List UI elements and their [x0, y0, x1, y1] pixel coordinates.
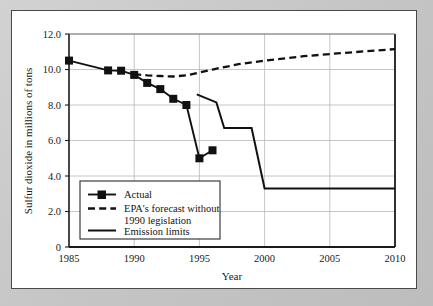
data-point-marker [156, 85, 164, 93]
chart-legend[interactable]: Actual EPA's forecast without 1990 legis… [80, 181, 220, 239]
xtick-label-1990: 1990 [124, 253, 145, 264]
xtick-label-1985: 1985 [59, 253, 80, 264]
data-point-marker [65, 57, 73, 65]
ytick-label-0: 0 [56, 242, 61, 253]
data-point-marker [130, 71, 138, 79]
y-tick-labels: 12.0 10.0 8.0 6.0 4.0 2.0 0 [43, 29, 61, 253]
chart-panel: 12.0 10.0 8.0 6.0 4.0 2.0 0 1985 1990 19… [11, 10, 417, 289]
ytick-label-12: 12.0 [43, 29, 61, 40]
legend-label-epa-forecast-line1: EPA's forecast without [124, 203, 219, 214]
x-axis-title: Year [222, 270, 243, 282]
data-point-marker [195, 154, 203, 162]
xtick-label-2005: 2005 [319, 253, 340, 264]
series-emission-limits-line [197, 94, 395, 188]
data-point-marker [143, 79, 151, 87]
data-point-marker [169, 95, 177, 103]
legend-label-emission-limits: Emission limits [124, 226, 190, 237]
legend-label-actual: Actual [124, 189, 152, 200]
data-point-marker [209, 146, 217, 154]
ytick-label-10: 10.0 [43, 64, 61, 75]
ytick-label-6: 6.0 [48, 135, 61, 146]
data-point-marker [182, 101, 190, 109]
ytick-label-2: 2.0 [48, 206, 61, 217]
ytick-label-4: 4.0 [48, 171, 61, 182]
series-actual-markers [65, 57, 217, 163]
figure-root: 12.0 10.0 8.0 6.0 4.0 2.0 0 1985 1990 19… [0, 0, 433, 306]
xtick-label-2010: 2010 [385, 253, 406, 264]
legend-swatch-actual-marker [98, 191, 107, 200]
data-point-marker [117, 67, 125, 75]
y-axis-title: Sulfur dioxide in millions of tons [22, 68, 34, 214]
legend-label-epa-forecast-line2: 1990 legislation [124, 215, 192, 226]
x-tick-labels: 1985 1990 1995 2000 2005 2010 [59, 253, 406, 264]
xtick-label-2000: 2000 [254, 253, 275, 264]
ytick-label-8: 8.0 [48, 100, 61, 111]
data-point-marker [104, 66, 112, 74]
chart-plot-container: 12.0 10.0 8.0 6.0 4.0 2.0 0 1985 1990 19… [12, 11, 418, 290]
sulfur-dioxide-line-chart: 12.0 10.0 8.0 6.0 4.0 2.0 0 1985 1990 19… [12, 11, 418, 290]
xtick-label-1995: 1995 [189, 253, 210, 264]
